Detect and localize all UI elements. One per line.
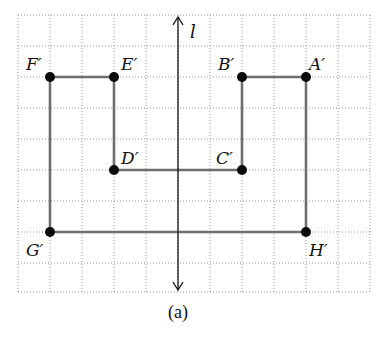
figure-caption: (a) bbox=[168, 302, 188, 323]
label-b-prime: B′ bbox=[217, 54, 234, 74]
label-a-prime: A′ bbox=[307, 54, 325, 74]
label-d-prime: D′ bbox=[120, 148, 139, 168]
vertex-d-prime bbox=[109, 165, 119, 175]
vertex-b-prime bbox=[237, 72, 247, 82]
axis-label-l: l bbox=[190, 21, 196, 42]
label-e-prime: E′ bbox=[120, 54, 137, 74]
reflection-diagram: l A′ B′ C′ D′ E′ F′ G′ H′ (a) bbox=[0, 0, 379, 337]
line-of-reflection: l bbox=[173, 17, 196, 290]
label-g-prime: G′ bbox=[26, 240, 44, 260]
vertex-e-prime bbox=[109, 72, 119, 82]
label-c-prime: C′ bbox=[216, 148, 233, 168]
vertex-c-prime bbox=[237, 165, 247, 175]
label-h-prime: H′ bbox=[308, 240, 328, 260]
vertex-h-prime bbox=[301, 227, 311, 237]
vertex-f-prime bbox=[45, 72, 55, 82]
label-f-prime: F′ bbox=[25, 54, 42, 74]
vertex-labels: A′ B′ C′ D′ E′ F′ G′ H′ bbox=[25, 54, 328, 260]
vertex-g-prime bbox=[45, 227, 55, 237]
